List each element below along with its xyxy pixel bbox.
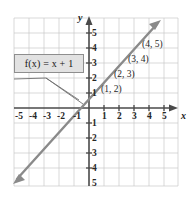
y-axis-arrowhead xyxy=(86,16,93,25)
x-tick-1: 1 xyxy=(102,112,107,122)
y-tick-1: 1 xyxy=(92,89,97,99)
x-axis-arrowhead xyxy=(169,105,178,112)
y-tick-5: 5 xyxy=(92,29,97,39)
y-tick-4: 4 xyxy=(92,44,97,54)
line-arrowhead-upper-right xyxy=(149,20,161,30)
leader-lines xyxy=(14,78,83,104)
point-label-1-2: (1, 2) xyxy=(101,85,122,95)
x-tick--3: -3 xyxy=(43,112,51,122)
equation-text: f(x) = x + 1 xyxy=(25,58,74,69)
function-line xyxy=(17,24,157,179)
y-tick-2: 2 xyxy=(92,74,97,84)
x-tick--5: -5 xyxy=(15,112,23,122)
x-tick-3: 3 xyxy=(132,112,137,122)
x-tick-5: 5 xyxy=(162,112,167,122)
x-tick--1: -1 xyxy=(73,112,81,122)
x-tick-2: 2 xyxy=(117,112,122,122)
tick-marks xyxy=(86,33,164,168)
y-tick--5: 5 xyxy=(92,179,97,189)
y-tick--1: 1 xyxy=(92,119,97,129)
equation-callout-box: f(x) = x + 1 xyxy=(14,54,84,73)
x-axis-label: x xyxy=(181,111,186,121)
line-arrowhead-lower-left xyxy=(13,174,25,184)
x-tick--2: -2 xyxy=(57,112,65,122)
y-tick-3: 3 xyxy=(92,59,97,69)
x-tick--4: -4 xyxy=(29,112,37,122)
point-label-4-5: (4, 5) xyxy=(142,40,163,50)
y-tick--2: 2 xyxy=(92,134,97,144)
point-label-3-4: (3, 4) xyxy=(128,55,149,65)
y-tick--3: 3 xyxy=(92,149,97,159)
y-axis-label: y xyxy=(78,13,82,23)
x-tick-4: 4 xyxy=(147,112,152,122)
y-tick--4: 4 xyxy=(92,164,97,174)
graph-figure: f(x) = x + 1 x y -5 -4 -3 -2 -1 1 2 3 4 … xyxy=(0,0,193,201)
point-label-2-3: (2, 3) xyxy=(114,70,135,80)
